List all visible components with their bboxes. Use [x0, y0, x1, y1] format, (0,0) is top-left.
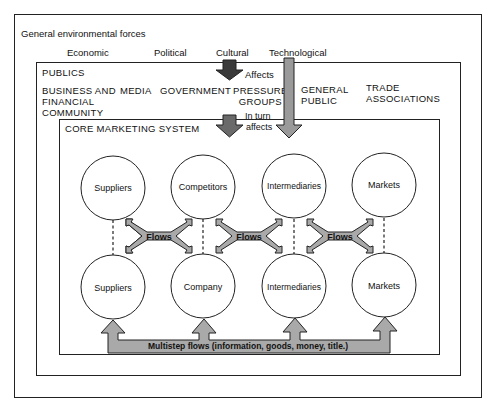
- node-top-suppliers: Suppliers: [81, 183, 145, 194]
- node-top-markets: Markets: [352, 180, 416, 191]
- flow-label-2: Flows: [236, 232, 262, 242]
- flow-label-3: Flows: [327, 232, 353, 242]
- flow-label-1: Flows: [146, 232, 172, 242]
- in-turn-affects-arrow-icon: [216, 115, 243, 137]
- node-bottom-company: Company: [171, 282, 235, 293]
- node-bottom-markets: Markets: [352, 281, 416, 292]
- node-bottom-suppliers: Suppliers: [81, 283, 145, 294]
- multistep-flows-label: Multistep flows (information, goods, mon…: [148, 341, 348, 352]
- technological-arrow-icon: [276, 58, 302, 138]
- node-bottom-intermediaries: Intermediaries: [262, 282, 326, 293]
- node-top-competitors: Competitors: [171, 182, 235, 193]
- node-top-intermediaries: Intermediaries: [262, 181, 326, 192]
- cultural-affects-arrow-icon: [216, 60, 243, 80]
